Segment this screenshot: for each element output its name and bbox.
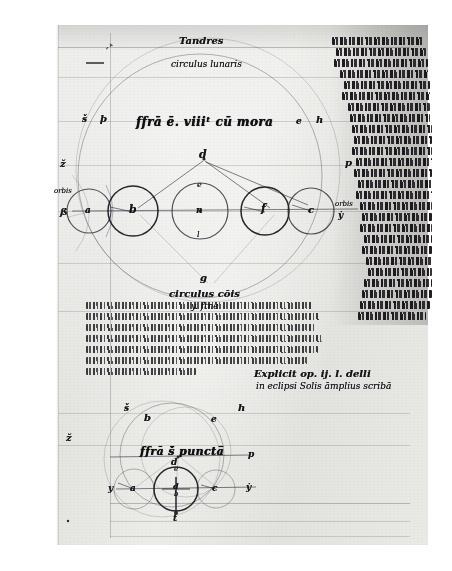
margin-text-line — [354, 136, 432, 144]
lower-label-below-center: b — [174, 491, 178, 498]
lower-label-p: p — [248, 450, 254, 459]
text-line — [86, 313, 320, 320]
lower-label-y-right: ẏ — [246, 483, 251, 492]
text-line — [86, 324, 316, 331]
text-line — [86, 335, 322, 342]
circle-circulus-outer — [76, 38, 340, 302]
margin-text-line — [342, 92, 430, 100]
lower-label-h: h — [238, 403, 245, 413]
lower-diagram-title: ffrā š̄ punctā̄ — [140, 445, 224, 458]
label-left-orbis: orbis — [54, 188, 72, 195]
text-line — [86, 346, 318, 353]
margin-text-line — [352, 125, 432, 133]
label-title-left-1: š — [82, 115, 87, 124]
stray-dash-left — [86, 62, 104, 64]
lower-label-upper-left: š — [124, 404, 129, 413]
lower-label-e: e — [211, 415, 217, 424]
lower-label-circle-c: c — [212, 484, 217, 493]
margin-text-line — [354, 169, 432, 177]
label-circle-c: c — [308, 205, 314, 215]
label-circle-f: f — [261, 203, 266, 214]
label-circulus-cois: circulus cōis — [169, 289, 240, 299]
lower-left-tick — [67, 520, 69, 522]
circle-circulus-communis — [78, 54, 322, 298]
margin-text-line — [362, 290, 432, 298]
margin-text-line — [358, 312, 426, 320]
label-left-upper: ž — [60, 159, 66, 169]
stray-mark-top-left: ,‣ — [106, 41, 114, 49]
label-circle-b: b — [129, 204, 137, 215]
margin-text-line — [364, 235, 432, 243]
margin-text-line — [366, 257, 432, 265]
margin-text-line — [368, 268, 432, 276]
margin-text-line — [358, 180, 432, 188]
label-point-l: l — [197, 231, 200, 239]
margin-text-line — [350, 114, 430, 122]
screenshot-canvas: Tandres circulus lunaris ffrā ē. viiiᵗ c… — [0, 0, 452, 571]
margin-text-line — [336, 48, 426, 56]
lower-label-left-edge: ž — [66, 433, 72, 443]
label-apex-d: d — [199, 149, 207, 160]
label-point-g: g — [200, 273, 207, 283]
heading-top-line-1: Tandres — [179, 36, 224, 46]
heading-top-line-2: circulus lunaris — [171, 60, 242, 69]
apex-ray-left — [138, 161, 203, 208]
margin-text-line — [348, 103, 430, 111]
lower-label-b: b — [144, 413, 151, 423]
explicit-line-1: Explicit op. ij. l. delli — [254, 369, 371, 379]
label-title-right-1: e — [296, 117, 302, 126]
label-title-right-2: h — [316, 115, 323, 125]
margin-text-line — [360, 301, 430, 309]
lower-label-circle-a: a — [130, 484, 136, 493]
lower-ray-right — [214, 215, 274, 283]
lower-big-circle-3 — [104, 401, 220, 517]
text-line — [86, 368, 196, 375]
text-line — [86, 357, 308, 364]
lower-ray-left — [140, 215, 208, 283]
text-line — [86, 302, 312, 309]
label-point-e: e — [197, 181, 202, 189]
margin-text-line — [334, 59, 428, 67]
label-title-left-2: þ — [100, 114, 107, 124]
margin-text-line — [362, 213, 432, 221]
margin-text-line — [340, 70, 428, 78]
margin-text-line — [360, 202, 432, 210]
margin-text-line — [356, 191, 432, 199]
lower-label-circle-d: d — [173, 482, 179, 490]
label-circle-a: a — [85, 206, 91, 215]
lower-label-y-left: y — [108, 484, 113, 493]
margin-text-line — [356, 158, 432, 166]
margin-text-line — [362, 246, 432, 254]
margin-text-line — [360, 224, 432, 232]
diagram-axis-line — [72, 209, 358, 211]
main-title: ffrā ē. viiiᵗ cū mora — [136, 115, 273, 129]
margin-text-line — [364, 279, 432, 287]
label-circle-n: n — [196, 206, 203, 215]
lower-label-bottom-t: t — [173, 514, 177, 523]
label-left-low: ß — [60, 207, 68, 217]
explicit-line-2: in eclipsi Solis āmplius scribā — [256, 382, 391, 391]
margin-text-line — [344, 81, 430, 89]
margin-text-line — [352, 147, 432, 155]
lower-label-above-center: e — [174, 466, 178, 473]
parchment-folio: Tandres circulus lunaris ffrā ē. viiiᵗ c… — [58, 25, 428, 545]
